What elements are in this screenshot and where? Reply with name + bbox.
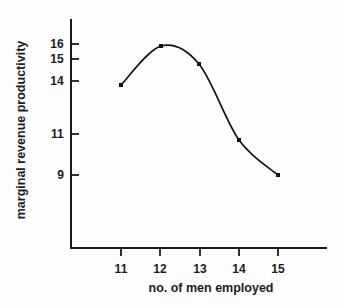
y-tick-label-15: 15 <box>42 52 64 66</box>
x-tick-label-14: 14 <box>232 262 246 276</box>
data-point-12 <box>159 44 163 48</box>
x-tick-label-12: 12 <box>153 262 167 276</box>
y-tick-label-16: 16 <box>42 37 64 51</box>
y-tick-label-11: 11 <box>42 127 64 141</box>
y-tick-label-14: 14 <box>42 74 64 88</box>
data-point-11 <box>119 83 123 87</box>
data-point-14 <box>237 138 241 142</box>
x-axis-label: no. of men employed <box>148 281 273 295</box>
x-axis-ticks <box>121 248 278 256</box>
x-tick-label-13: 13 <box>193 262 207 276</box>
y-axis-ticks <box>71 44 79 175</box>
x-tick-label-11: 11 <box>114 262 127 276</box>
data-point-15 <box>276 173 280 177</box>
y-tick-label-9: 9 <box>42 168 64 182</box>
chart-container: 16 15 14 11 9 11 12 13 14 15 no. of men … <box>0 0 343 307</box>
y-axis-label: marginal revenue productivity <box>14 41 28 220</box>
data-point-13 <box>197 62 201 66</box>
x-tick-label-15: 15 <box>271 262 285 276</box>
